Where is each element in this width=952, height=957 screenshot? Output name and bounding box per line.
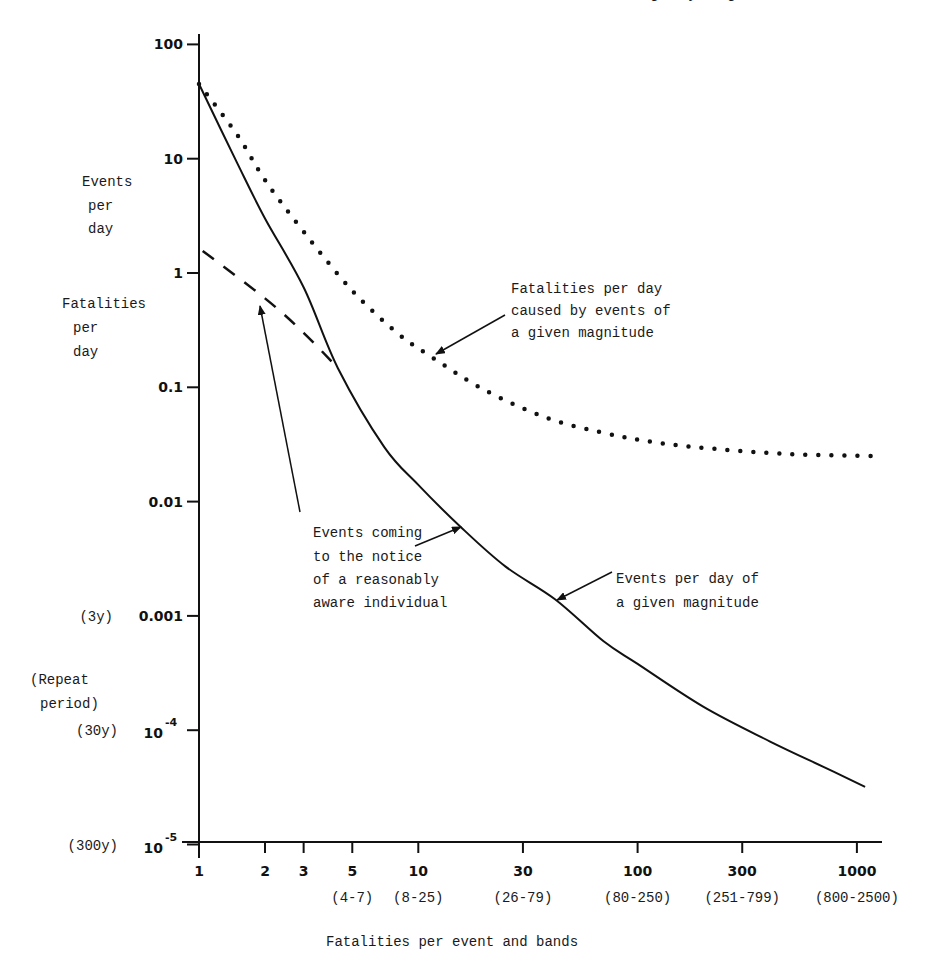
x-band-label: (80-250) <box>604 890 671 906</box>
y-tick-label: 10 <box>144 725 164 741</box>
ylabel-line: per <box>88 198 113 214</box>
y-axis-ticks: 1001010.10.010.001(3y)10-4(30y)10-5(300y… <box>68 36 199 855</box>
x-band-label: (4-7) <box>331 890 373 906</box>
y-tick-exponent: -5 <box>165 831 177 844</box>
annotation-line: a given magnitude <box>511 325 654 341</box>
x-tick-label: 1000 <box>837 863 876 879</box>
ylabel-line: per <box>73 320 98 336</box>
x-tick-label: 30 <box>513 863 533 879</box>
annotation-fatalities-per-day: Fatalities per day caused by events of a… <box>436 281 671 354</box>
x-tick-label: 2 <box>260 863 270 879</box>
x-tick-label: 300 <box>728 863 757 879</box>
y-tick-label: 0.1 <box>158 379 183 395</box>
repeat-label-line: (Repeat <box>30 672 89 688</box>
chart-figure: …g … y … g 1001010.10.010.001(3y)10-4(30… <box>0 0 952 957</box>
annotation-line: caused by events of <box>511 303 671 319</box>
x-tick-label: 1 <box>194 863 204 879</box>
x-band-label: (800-2500) <box>815 890 899 906</box>
repeat-period-label: (30y) <box>76 723 118 739</box>
y-tick-label: 0.001 <box>139 608 183 624</box>
annotation-line: aware individual <box>313 595 447 611</box>
ylabel-line: Events <box>82 174 132 190</box>
series-dashed-line <box>203 251 338 368</box>
running-head-fragment: …g … y … g <box>640 0 736 3</box>
x-band-label: (8-25) <box>393 890 443 906</box>
series-layer <box>199 84 874 787</box>
annotation-line: Events coming <box>313 525 422 541</box>
x-band-label: (251-799) <box>704 890 780 906</box>
x-axis-label: Fatalities per event and bands <box>326 934 578 950</box>
y-tick-label: 10 <box>144 840 164 856</box>
y-axis-label: Events per day Fatalities per day <box>62 174 146 360</box>
arrow-icon <box>557 572 612 600</box>
arrow-icon <box>260 306 300 512</box>
y-tick-exponent: -4 <box>165 716 178 729</box>
x-axis-ticks: 1235(4-7)10(8-25)30(26-79)100(80-250)300… <box>194 842 899 906</box>
x-tick-label: 100 <box>623 863 652 879</box>
ylabel-line: day <box>73 344 98 360</box>
repeat-label-line: period) <box>40 696 99 712</box>
arrow-icon <box>436 315 505 354</box>
repeat-period-label: (3y) <box>79 609 113 625</box>
x-tick-label: 3 <box>299 863 309 879</box>
annotation-line: to the notice <box>313 549 422 565</box>
series-dotted-line <box>199 84 874 456</box>
ylabel-line: day <box>88 221 113 237</box>
annotation-line: of a reasonably <box>313 572 439 588</box>
y-tick-label: 0.01 <box>148 494 183 510</box>
annotation-line: Fatalities per day <box>511 281 662 297</box>
x-tick-label: 10 <box>409 863 429 879</box>
x-tick-label: 5 <box>347 863 357 879</box>
y-tick-label: 1 <box>173 265 183 281</box>
annotation-line: Events per day of <box>616 571 759 587</box>
repeat-period-label: (Repeat period) <box>30 672 99 712</box>
annotation-events-noticed: Events coming to the notice of a reasona… <box>260 306 461 611</box>
y-tick-label: 10 <box>164 151 184 167</box>
ylabel-line: Fatalities <box>62 296 146 312</box>
annotation-line: a given magnitude <box>616 595 759 611</box>
series-solid-line <box>199 84 865 787</box>
repeat-period-label: (300y) <box>68 838 118 854</box>
annotation-events-per-day: Events per day of a given magnitude <box>557 571 759 611</box>
y-tick-label: 100 <box>154 36 183 52</box>
x-band-label: (26-79) <box>494 890 553 906</box>
